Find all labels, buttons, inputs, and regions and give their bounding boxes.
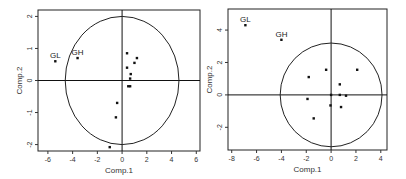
x-tick-label: 0 xyxy=(120,156,124,163)
data-point xyxy=(356,69,358,71)
x-tick-label: -6 xyxy=(45,156,51,163)
y-tick-label: -2 xyxy=(216,124,223,130)
plot-frame xyxy=(228,9,387,150)
data-point xyxy=(313,117,315,119)
y-tick-label: -1 xyxy=(26,109,33,115)
y-tick-label: 2 xyxy=(26,14,33,18)
x-tick-label: 4 xyxy=(379,155,383,162)
point-label: GL xyxy=(50,51,61,60)
data-point xyxy=(306,98,308,100)
data-point xyxy=(76,57,78,59)
x-tick-label: -4 xyxy=(70,156,76,163)
x-tick-label: -2 xyxy=(94,156,100,163)
y-tick-label: 1 xyxy=(26,46,33,50)
data-point xyxy=(339,83,341,85)
y-tick-label: 0 xyxy=(216,93,223,97)
x-axis-label: Comp.1 xyxy=(105,166,134,175)
x-tick-label: -8 xyxy=(229,155,235,162)
data-point xyxy=(244,24,246,26)
data-point xyxy=(115,116,117,118)
y-tick-label: 4 xyxy=(216,28,223,32)
data-point xyxy=(130,73,132,75)
data-point xyxy=(340,106,342,108)
y-tick-label: -2 xyxy=(26,141,33,147)
y-axis-label: Comp.2 xyxy=(205,65,214,94)
x-tick-label: 4 xyxy=(170,156,174,163)
data-point xyxy=(126,66,128,68)
x-tick-label: 6 xyxy=(194,156,198,163)
y-tick-label: 0 xyxy=(26,78,33,82)
x-tick-label: -6 xyxy=(253,155,259,162)
data-point xyxy=(133,62,135,64)
x-tick-label: 0 xyxy=(329,155,333,162)
data-point xyxy=(129,85,131,87)
data-point xyxy=(136,57,138,59)
x-axis-label: Comp.1 xyxy=(293,165,322,174)
data-point xyxy=(325,69,327,71)
data-point xyxy=(345,95,347,97)
y-axis-label: Comp.2 xyxy=(15,66,24,95)
data-point xyxy=(330,94,332,96)
x-tick-label: -2 xyxy=(303,155,309,162)
x-tick-label: -4 xyxy=(278,155,284,162)
data-point xyxy=(109,146,111,148)
x-tick-label: 2 xyxy=(145,156,149,163)
data-point xyxy=(126,52,128,54)
plot-panel-1: -6-4-20246-2-1012Comp.1Comp.2GLGH xyxy=(15,10,200,175)
point-label: GH xyxy=(72,48,84,57)
y-tick-label: 2 xyxy=(216,60,223,64)
data-point xyxy=(54,60,56,62)
pca-biplots: -6-4-20246-2-1012Comp.1Comp.2GLGH-8-6-4-… xyxy=(0,0,406,179)
data-point xyxy=(116,102,118,104)
plot-panel-2: -8-6-4-2024-2024Comp.1Comp.2GLGH xyxy=(205,9,387,174)
point-label: GH xyxy=(275,30,287,39)
data-point xyxy=(308,76,310,78)
data-point xyxy=(129,77,131,79)
data-point xyxy=(280,39,282,41)
data-point xyxy=(329,104,331,106)
x-tick-label: 2 xyxy=(354,155,358,162)
point-label: GL xyxy=(240,15,251,24)
data-point xyxy=(339,94,341,96)
